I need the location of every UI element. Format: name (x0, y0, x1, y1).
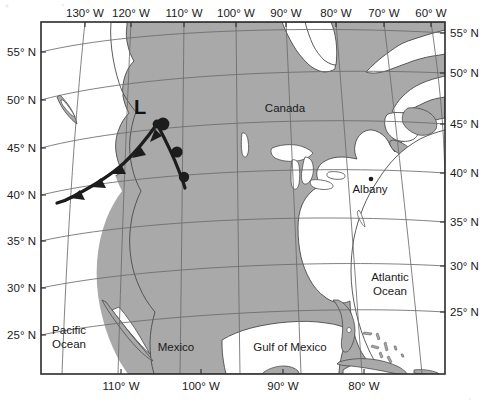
tick-label-90w-bottom: 90° W (267, 380, 299, 392)
tick-label-45n-left: 45° N (7, 142, 36, 154)
label-atlantic-ocean-line2: Ocean (373, 285, 407, 297)
tick-label-90w-top: 90° W (270, 7, 302, 19)
tick-label-35n-left: 35° N (7, 235, 36, 247)
low-pressure-label: L (134, 96, 146, 118)
label-albany: Albany (352, 183, 387, 195)
tick-label-80w-bottom: 80° W (348, 380, 380, 392)
tick-label-25n-left: 25° N (7, 329, 36, 341)
tick-label-130w-top: 130° W (66, 7, 104, 19)
label-gulf-of-mexico: Gulf of Mexico (253, 341, 327, 353)
tick-label-55n-left: 55° N (7, 46, 36, 58)
tick-label-30n-left: 30° N (7, 282, 36, 294)
warm-bump-2 (171, 146, 182, 157)
tick-label-110w-top: 110° W (166, 7, 203, 19)
label-pacific-ocean-line1: Pacific (52, 324, 86, 336)
albany-station-dot (369, 177, 374, 182)
label-atlantic-ocean-line1: Atlantic (371, 271, 409, 283)
lake-okeechobee (347, 327, 351, 332)
warm-bump-3 (179, 172, 189, 182)
label-pacific-ocean-line2: Ocean (52, 338, 86, 350)
label-mexico: Mexico (158, 341, 194, 353)
tick-label-100w-bottom: 100° W (182, 380, 220, 392)
tick-label-80w-top: 80° W (320, 7, 352, 19)
tick-label-40n-left: 40° N (7, 189, 36, 201)
tick-label-45n-right: 45° N (450, 118, 479, 130)
tick-label-35n-right: 35° N (450, 216, 479, 228)
low-pressure-center-dot (153, 120, 162, 129)
tick-label-30n-right: 30° N (450, 260, 479, 272)
tick-label-40n-right: 40° N (450, 167, 479, 179)
weather-map-figure: L Canada Mexico Albany Pacific Ocean Atl… (0, 0, 488, 414)
label-canada: Canada (265, 102, 306, 114)
map-canvas: L Canada Mexico Albany Pacific Ocean Atl… (0, 0, 488, 414)
tick-label-120w-top: 120° W (112, 7, 150, 19)
tick-label-50n-left: 50° N (7, 94, 36, 106)
tick-label-100w-top: 100° W (217, 7, 255, 19)
tick-label-50n-right: 50° N (450, 67, 479, 79)
tick-label-110w-bottom: 110° W (103, 380, 140, 392)
tick-label-25n-right: 25° N (450, 306, 479, 318)
tick-label-55n-right: 55° N (450, 27, 479, 39)
tick-label-70w-top: 70° W (368, 7, 400, 19)
map-plate: L Canada Mexico Albany Pacific Ocean Atl… (41, 22, 445, 375)
tick-label-60w-top: 60° W (415, 7, 447, 19)
lake-ontario (327, 172, 345, 180)
